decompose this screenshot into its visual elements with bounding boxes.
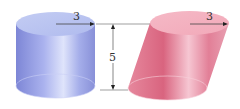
oblique-radius-label: 3 [206,10,213,23]
cylinders-diagram: 3 5 3 [0,0,240,109]
height-arrowhead-down [111,85,115,90]
oblique-cylinder-top [150,11,229,35]
right-radius-label: 3 [73,10,80,23]
right-cylinder: 3 [16,10,95,98]
height-label: 5 [109,51,116,64]
oblique-cylinder-body [128,23,229,100]
height-arrowhead-up [111,24,115,29]
oblique-cylinder: 3 [128,10,229,100]
